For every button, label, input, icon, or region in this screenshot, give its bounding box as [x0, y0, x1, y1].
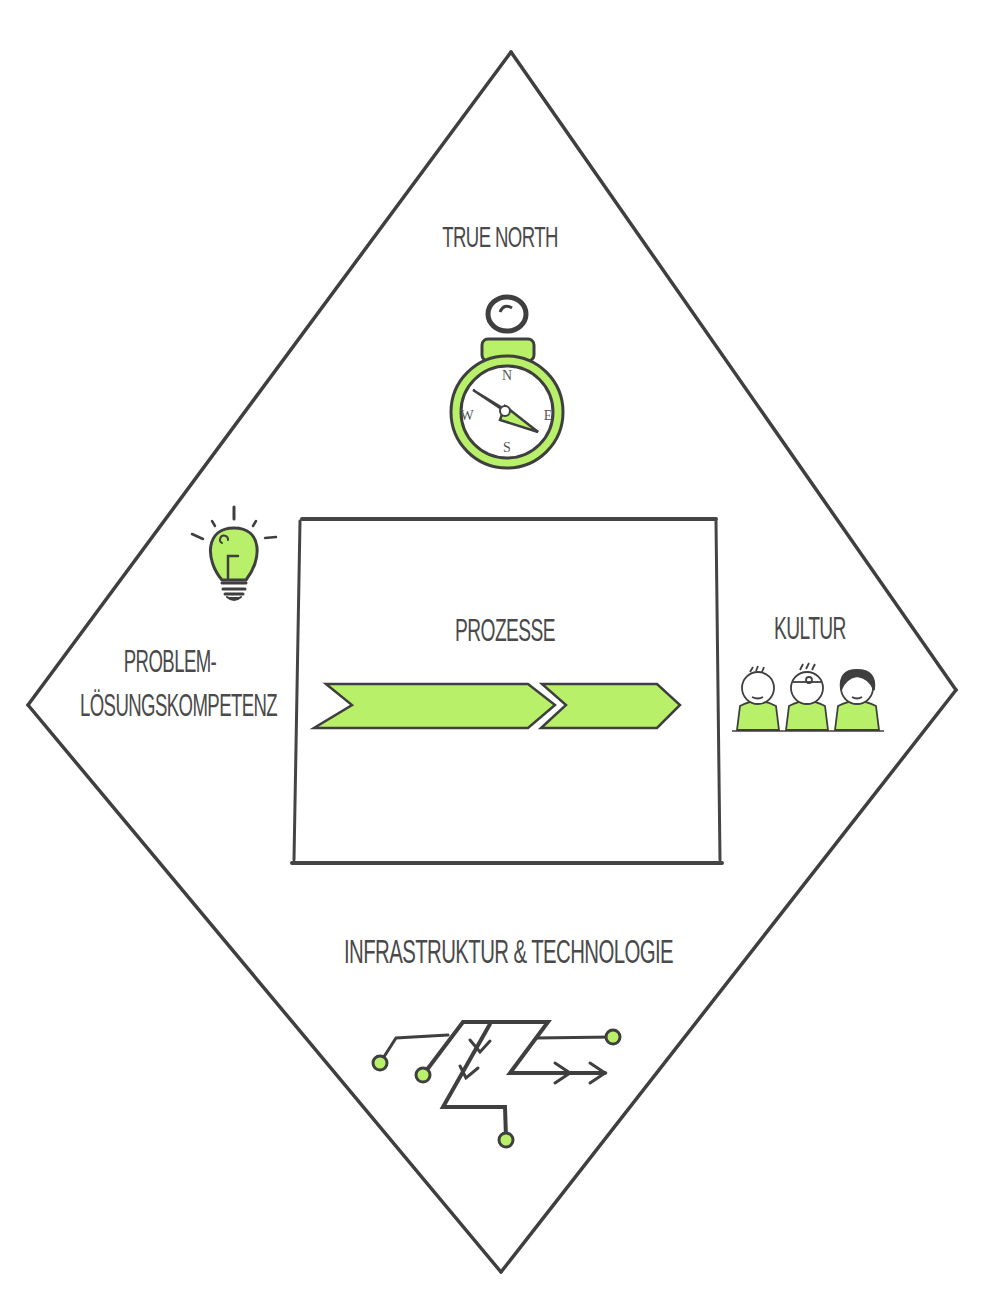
process-arrows-icon [314, 684, 680, 728]
label-true-north: True North [438, 220, 562, 254]
label-prozesse: Prozesse [445, 612, 565, 649]
label-kultur: Kultur [750, 610, 870, 647]
lightbulb-icon [192, 507, 276, 600]
label-problemloesungskompetenz: Problem- Lösungskompetenz [80, 640, 260, 728]
compass-icon: N E S W [451, 297, 563, 468]
svg-text:N: N [502, 368, 512, 383]
svg-text:E: E [544, 408, 553, 423]
svg-text:W: W [460, 408, 474, 423]
person-3 [835, 670, 879, 730]
people-group-icon [732, 663, 884, 731]
label-infrastruktur-technologie: Infrastruktur & Technologie [344, 932, 656, 971]
svg-text:S: S [503, 440, 511, 455]
process-arrow-1 [314, 684, 555, 728]
person-1 [737, 666, 779, 730]
label-problem-line1: Problem- [80, 640, 260, 684]
framework-diagram: N E S W [0, 0, 982, 1299]
label-problem-line2: Lösungskompetenz [80, 684, 260, 728]
person-2 [786, 663, 828, 730]
circuit-icon [373, 1022, 620, 1147]
process-arrow-2 [541, 684, 680, 728]
